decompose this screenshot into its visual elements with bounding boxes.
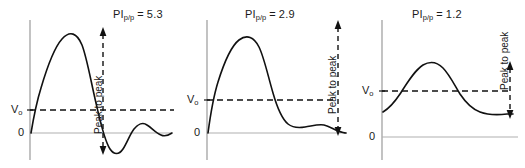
pi-label-panel-2: PIp/p=2.9	[245, 9, 295, 22]
pi-value: 1.2	[446, 8, 462, 20]
pi-equals: =	[436, 8, 443, 20]
waveform-curve	[383, 63, 513, 115]
pi-value: 2.9	[279, 8, 295, 20]
zero-axis-label-panel-2: 0	[194, 127, 200, 138]
pi-prefix: PI	[412, 8, 423, 20]
pulsatility-index-figure: PIp/p=5.3 Peak to peak Vo 0 PIp/p=2.9 Pe…	[0, 0, 525, 168]
vo-axis-label-panel-2: Vo	[187, 94, 199, 107]
pi-prefix: PI	[245, 8, 256, 20]
v-subscript: o	[194, 98, 198, 107]
chart-panel-1: PIp/p=5.3 Peak to peak Vo 0	[0, 0, 175, 168]
pi-subscript: p/p	[256, 13, 266, 22]
vo-axis-label-panel-1: Vo	[11, 104, 23, 117]
panel-1-plot	[0, 0, 175, 168]
pi-subscript: p/p	[423, 13, 433, 22]
pi-equals: =	[269, 8, 276, 20]
pi-label-panel-1: PIp/p=5.3	[113, 9, 163, 22]
pi-value: 5.3	[147, 8, 163, 20]
vo-axis-label-panel-3: Vo	[362, 85, 374, 98]
zero-axis-label-panel-3: 0	[369, 131, 375, 142]
peak-to-peak-arrow-head-up	[335, 20, 342, 29]
zero-axis-label-panel-1: 0	[18, 127, 24, 138]
pi-equals: =	[137, 8, 144, 20]
pi-prefix: PI	[113, 8, 124, 20]
panel-2-plot	[175, 0, 350, 168]
peak-to-peak-label-panel-3: Peak to peak	[500, 32, 510, 90]
peak-to-peak-arrow-head-up	[100, 27, 107, 36]
waveform-curve	[208, 37, 346, 133]
peak-to-peak-arrow-head-down	[100, 146, 107, 155]
v-subscript: o	[18, 108, 22, 117]
peak-to-peak-label-panel-2: Peak to peak	[328, 56, 338, 114]
chart-panel-2: PIp/p=2.9 Peak to peak Vo 0	[175, 0, 350, 168]
pi-subscript: p/p	[124, 13, 134, 22]
peak-to-peak-label-panel-1: Peak to peak	[94, 76, 104, 134]
pi-label-panel-3: PIp/p=1.2	[412, 9, 462, 22]
chart-panel-3: PIp/p=1.2 Peak to peak Vo 0	[350, 0, 525, 168]
v-subscript: o	[369, 89, 373, 98]
